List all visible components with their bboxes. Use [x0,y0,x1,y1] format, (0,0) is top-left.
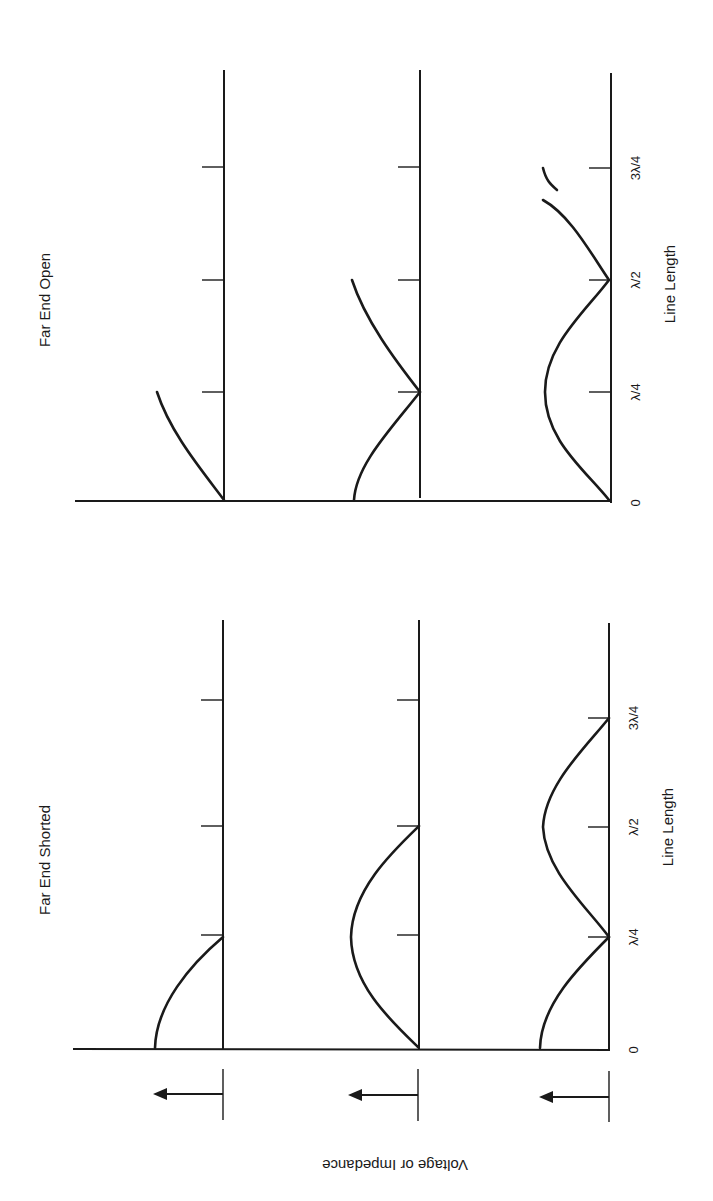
tick-label-half: λ/2 [628,271,643,288]
curve-shorted-1 [155,937,223,1048]
tick-label-three-quarter-shorted: 3λ/4 [626,706,641,731]
curve-open-2 [352,280,420,500]
arrow-icon [539,1071,609,1122]
arrow-icon [348,1069,418,1121]
panel-title-shorted: Far End Shorted [36,805,53,915]
tick-label-half-shorted: λ/2 [626,818,641,835]
curve-shorted-2 [351,826,419,1047]
curve-open-3 [543,200,609,500]
tick-label-quarter-shorted: λ/4 [626,928,641,945]
panel-far-end-open: Far End Open 0 λ/4 λ/2 3λ/4 Line Length [36,70,678,507]
tick-label-quarter: λ/4 [628,383,643,400]
x-axis-label-open: Line Length [661,245,678,323]
y-axis-label: Voltage or Impedance [322,1157,468,1174]
curve-open-1 [157,392,224,500]
tick-label-0-shorted: 0 [626,1046,641,1053]
curve-shorted-3 [540,718,609,1048]
baseline-shorted [73,1049,610,1050]
x-axis-label-shorted: Line Length [659,788,676,866]
panel-far-end-shorted: Far End Shorted 0 λ/4 λ/2 3λ/4 Line Leng… [36,620,676,1054]
arrow-icon [153,1069,223,1120]
panel-title-open: Far End Open [36,253,53,347]
tick-label-three-quarter: 3λ/4 [628,156,643,181]
curve-open-3-tail [543,168,557,190]
tick-label-0: 0 [628,499,643,506]
y-axis-arrows: Voltage or Impedance [153,1069,609,1174]
standing-wave-diagram: Far End Open 0 λ/4 λ/2 3λ/4 Line Length … [0,0,713,1201]
